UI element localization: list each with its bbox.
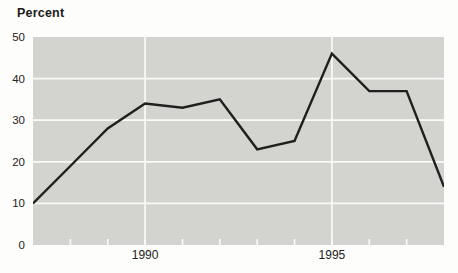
plot-area [33,37,444,245]
line-chart-svg [33,37,444,245]
y-tick-label: 0 [19,239,25,251]
y-axis-labels: 01020304050 [0,37,28,245]
x-tick-label: 1995 [319,248,346,262]
line-chart-figure: Percent 01020304050 19901995 [0,0,458,273]
y-axis-unit-label: Percent [17,6,64,20]
y-tick-label: 30 [12,114,25,126]
y-tick-label: 10 [12,197,25,209]
y-tick-label: 50 [12,31,25,43]
x-axis-labels: 19901995 [33,248,444,266]
y-tick-label: 20 [12,156,25,168]
y-tick-label: 40 [12,73,25,85]
x-tick-label: 1990 [132,248,159,262]
data-series-line [33,54,444,204]
